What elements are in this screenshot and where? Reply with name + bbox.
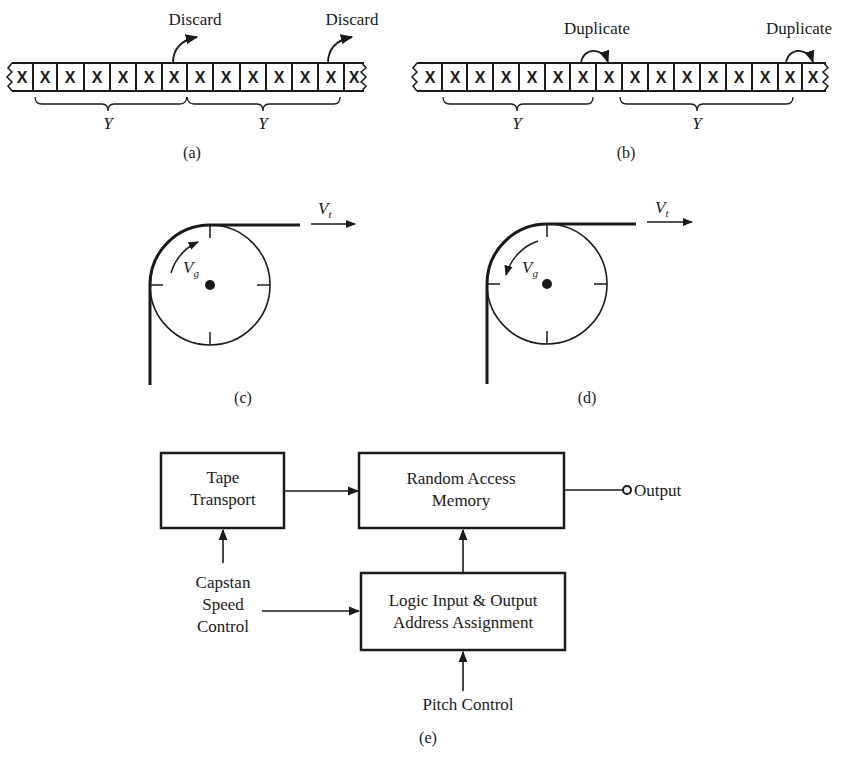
svg-text:X: X xyxy=(425,69,436,86)
figure-a: X X X X X X X X X X X X X X Discard Disc… xyxy=(7,10,379,162)
tape-transport-label-2: Transport xyxy=(190,490,256,509)
svg-text:X: X xyxy=(682,69,693,86)
svg-text:X: X xyxy=(349,69,360,86)
capstan-label-3: Control xyxy=(197,617,249,636)
brace-a-2 xyxy=(187,97,340,111)
svg-text:X: X xyxy=(630,69,641,86)
caption-a: (a) xyxy=(183,144,201,162)
drum-center-d xyxy=(542,279,552,289)
duplicate-arrow-1 xyxy=(581,51,608,63)
svg-text:X: X xyxy=(118,69,129,86)
head-velocity-label-c: Vg xyxy=(183,258,199,279)
svg-text:X: X xyxy=(553,69,564,86)
output-label: Output xyxy=(634,481,682,500)
pitch-control-label: Pitch Control xyxy=(422,695,513,714)
svg-text:X: X xyxy=(450,69,461,86)
tape-velocity-label-d: Vt xyxy=(655,198,669,219)
ram-label-1: Random Access xyxy=(406,469,515,488)
svg-text:X: X xyxy=(169,69,180,86)
caption-c: (c) xyxy=(234,389,252,407)
duplicate-arrow-2 xyxy=(786,51,813,63)
svg-text:X: X xyxy=(65,69,76,86)
discard-arrow-2 xyxy=(328,37,352,63)
capstan-label-1: Capstan xyxy=(196,573,251,592)
svg-text:X: X xyxy=(578,69,589,86)
caption-d: (d) xyxy=(578,389,597,407)
brace-label-b-2: Y xyxy=(692,114,703,133)
output-terminal-icon xyxy=(623,486,631,494)
tape-path-c xyxy=(150,225,300,385)
brace-b-2 xyxy=(620,97,793,111)
svg-text:X: X xyxy=(604,69,615,86)
tape-path-d xyxy=(487,224,636,384)
tape-strip-a xyxy=(7,63,366,91)
duplicate-label-1: Duplicate xyxy=(564,19,630,38)
svg-text:X: X xyxy=(708,69,719,86)
svg-text:X: X xyxy=(734,69,745,86)
svg-text:X: X xyxy=(501,69,512,86)
brace-a-1 xyxy=(35,97,187,111)
tape-velocity-label-c: Vt xyxy=(318,199,332,220)
svg-text:X: X xyxy=(274,69,285,86)
figure-d: Vt Vg (d) xyxy=(487,198,692,407)
svg-text:X: X xyxy=(760,69,771,86)
logic-block xyxy=(361,573,565,650)
svg-text:X: X xyxy=(300,69,311,86)
caption-e: (e) xyxy=(419,729,437,747)
svg-text:X: X xyxy=(248,69,259,86)
brace-label-b-1: Y xyxy=(512,114,523,133)
svg-text:X: X xyxy=(221,69,232,86)
brace-b-1 xyxy=(443,97,593,111)
discard-label-2: Discard xyxy=(326,10,379,29)
tape-transport-label-1: Tape xyxy=(207,468,240,487)
svg-text:X: X xyxy=(144,69,155,86)
figure-canvas: X X X X X X X X X X X X X X Discard Disc… xyxy=(0,0,841,760)
svg-text:X: X xyxy=(326,69,337,86)
svg-text:X: X xyxy=(92,69,103,86)
discard-label-1: Discard xyxy=(169,10,222,29)
svg-text:X: X xyxy=(527,69,538,86)
svg-text:X: X xyxy=(785,69,796,86)
figure-c: Vt Vg (c) xyxy=(150,199,355,407)
svg-text:X: X xyxy=(475,69,486,86)
ram-label-2: Memory xyxy=(432,491,491,510)
svg-text:X: X xyxy=(40,69,51,86)
capstan-label-2: Speed xyxy=(202,595,244,614)
head-velocity-label-d: Vg xyxy=(522,258,538,279)
logic-label-1: Logic Input & Output xyxy=(389,591,538,610)
duplicate-label-2: Duplicate xyxy=(766,19,832,38)
tape-cells-a: X X X X X X X X X X X X X X xyxy=(17,69,360,86)
drum-center-c xyxy=(205,280,215,290)
svg-text:X: X xyxy=(656,69,667,86)
svg-text:X: X xyxy=(808,69,819,86)
figure-b: X X X X X X X X X X X X X X X X Duplicat… xyxy=(412,19,832,162)
logic-label-2: Address Assignment xyxy=(393,613,534,632)
discard-arrow-1 xyxy=(173,37,197,63)
brace-label-a-2: Y xyxy=(258,114,269,133)
svg-text:X: X xyxy=(195,69,206,86)
figure-e: Tape Transport Random Access Memory Logi… xyxy=(161,453,682,747)
caption-b: (b) xyxy=(617,144,636,162)
brace-label-a-1: Y xyxy=(103,114,114,133)
svg-text:X: X xyxy=(17,69,28,86)
